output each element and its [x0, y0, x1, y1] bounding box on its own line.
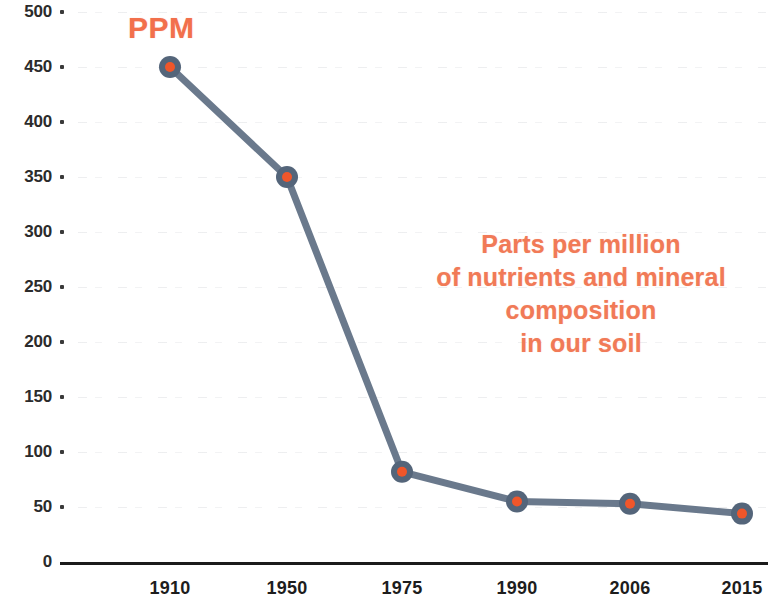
x-tick-label: 1975 [382, 578, 423, 599]
x-tick-label: 2006 [610, 578, 651, 599]
data-point-marker [159, 56, 181, 78]
data-point-marker [276, 166, 298, 188]
marker-center [625, 499, 635, 509]
x-tick-label: 1990 [497, 578, 538, 599]
data-point-marker [731, 503, 753, 525]
data-point-marker [506, 491, 528, 513]
marker-center [282, 172, 292, 182]
data-point-marker [619, 493, 641, 515]
x-axis-line [60, 562, 768, 565]
line-chart: 500450400350300250200150100500 191019501… [0, 0, 773, 609]
description-block: Parts per million of nutrients and miner… [389, 228, 773, 360]
data-point-marker [391, 461, 413, 483]
x-tick-label: 1950 [267, 578, 308, 599]
description-line-3: composition [389, 294, 773, 327]
x-tick-label: 2015 [722, 578, 763, 599]
description-line-1: Parts per million [389, 228, 773, 261]
marker-center [165, 62, 175, 72]
x-tick-label: 1910 [150, 578, 191, 599]
ppm-axis-label: PPM [128, 11, 195, 45]
marker-center [512, 497, 522, 507]
marker-center [397, 467, 407, 477]
description-line-2: of nutrients and mineral [389, 261, 773, 294]
description-line-4: in our soil [389, 327, 773, 360]
marker-center [737, 509, 747, 519]
